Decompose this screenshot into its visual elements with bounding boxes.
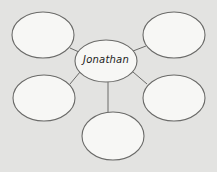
connector-mid-right	[133, 72, 147, 84]
connector-top-right	[133, 46, 146, 51]
node-bottom	[82, 112, 144, 160]
node-mid-left	[13, 75, 75, 121]
node-top-right	[143, 12, 205, 58]
connector-mid-left	[70, 72, 80, 84]
mind-map-diagram	[0, 0, 217, 172]
center-node-label: Jonathan	[76, 54, 136, 65]
node-top-left	[12, 12, 74, 58]
node-mid-right	[143, 75, 205, 121]
